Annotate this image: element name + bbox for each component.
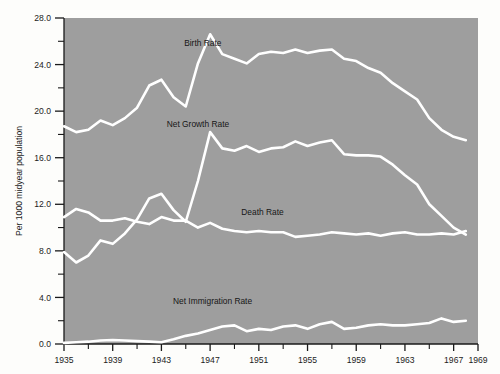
x-tick-label: 1969 [468, 355, 487, 365]
x-tick-label: 1951 [249, 355, 268, 365]
x-tick-label: 1943 [152, 355, 171, 365]
y-tick-label: 4.0 [39, 293, 51, 303]
y-tick-label: 12.0 [34, 199, 51, 209]
x-tick-label: 1959 [347, 355, 366, 365]
chart-canvas: 0.04.08.012.016.020.024.028.019351939194… [0, 0, 500, 374]
series-label-death-rate: Death Rate [241, 207, 284, 217]
y-tick-label: 28.0 [34, 13, 51, 23]
x-tick-label: 1967 [444, 355, 463, 365]
y-axis-title: Per 1000 midyear population [14, 126, 24, 236]
plot-background [64, 18, 478, 344]
x-tick-label: 1939 [103, 355, 122, 365]
y-tick-label: 0.0 [39, 339, 51, 349]
x-tick-label: 1963 [395, 355, 414, 365]
y-tick-label: 8.0 [39, 246, 51, 256]
series-label-net-growth-rate: Net Growth Rate [167, 119, 230, 129]
x-tick-label: 1955 [298, 355, 317, 365]
y-tick-label: 16.0 [34, 153, 51, 163]
y-tick-label: 20.0 [34, 106, 51, 116]
vital-statistics-line-chart: 0.04.08.012.016.020.024.028.019351939194… [0, 0, 500, 374]
x-tick-label: 1935 [54, 355, 73, 365]
series-label-birth-rate: Birth Rate [184, 38, 222, 48]
series-label-net-immigration-rate: Net Immigration Rate [173, 296, 252, 306]
x-tick-label: 1947 [201, 355, 220, 365]
y-tick-label: 24.0 [34, 60, 51, 70]
